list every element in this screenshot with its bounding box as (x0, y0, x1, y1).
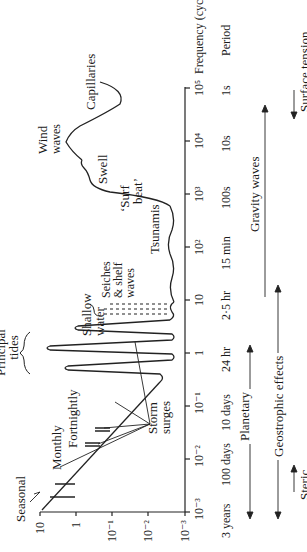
band-surface-tension: Surface tension (298, 31, 307, 112)
band-planetary: Planetary (238, 389, 251, 444)
storm-line2: surges (158, 401, 173, 434)
seiches-line3: waves (123, 268, 137, 298)
band-geostrophic: Geostrophic effects (272, 353, 285, 460)
period-tick-2: 10 days (220, 394, 232, 431)
figure: 10 1 10⁻¹ 10⁻² 10⁻³ Energy (m², decade) … (0, 0, 307, 552)
period-tick-5: 15 min (220, 236, 232, 270)
x-tick-5: 10² (193, 239, 205, 255)
annotation-swell: Swell (96, 154, 109, 184)
x-tick-0: 10⁻³ (193, 498, 205, 520)
period-tick-7: 10s (220, 135, 232, 152)
chart-svg (0, 0, 307, 552)
period-tick-1: 100 days (220, 443, 232, 486)
annotation-seasonal: Seasonal (14, 476, 27, 522)
surf-line2: beat’ (130, 178, 145, 212)
annotation-seiches: Seiches & shelf waves (100, 261, 136, 298)
period-tick-3: 24 hr (220, 347, 232, 372)
band-gravity-waves: Gravity waves (248, 157, 261, 232)
annotation-principal-tides: Principal tides (0, 329, 20, 376)
y-tick-0.1: 10⁻¹ (106, 520, 118, 542)
x-tick-7: 10⁴ (193, 133, 205, 149)
principal-line2: tides (6, 335, 21, 370)
period-tick-8: 1s (220, 85, 232, 96)
y-tick-0.001: 10⁻³ (179, 520, 191, 542)
x-tick-1: 10⁻² (193, 445, 205, 467)
x-tick-8: 10⁵ (193, 80, 205, 96)
x-tick-6: 10³ (193, 186, 205, 202)
annotation-monthly: Monthly (50, 425, 63, 470)
y-tick-10: 10 (34, 522, 46, 534)
x-tick-3: 1 (193, 350, 205, 356)
band-steric: Steric (298, 470, 307, 500)
seasonal-arrow (30, 492, 40, 502)
period-tick-6: 100s (220, 186, 232, 209)
x-tick-2: 10⁻¹ (193, 392, 205, 414)
annotation-capillaries: Capillaries (84, 54, 97, 110)
annotation-storm-surges: Storm surges (146, 401, 172, 434)
y-tick-1: 1 (70, 522, 82, 528)
x-tick-4: 10 (193, 294, 205, 306)
annotation-wind-waves: Wind waves (36, 124, 62, 154)
seiches-marks (104, 304, 168, 314)
period-label: Period (220, 25, 232, 56)
wind-line1: Wind (35, 126, 50, 154)
period-tick-4: 2·5 hr (220, 291, 232, 320)
annotation-shallow-water: Shallow water (80, 293, 106, 336)
rotated-chart: 10 1 10⁻¹ 10⁻² 10⁻³ Energy (m², decade) … (0, 0, 307, 552)
y-tick-0.01: 10⁻² (142, 520, 154, 542)
frequency-axis-label: Frequency (cycles/day) (193, 0, 205, 74)
shallow-line2: water (92, 307, 107, 336)
annotation-tsunamis: Tsunamis (148, 204, 161, 254)
principal-tides-brace (20, 332, 30, 374)
period-tick-0: 3 years (220, 504, 232, 538)
annotation-surf-beat: ‘Surf beat’ (118, 178, 144, 212)
annotation-fortnightly: Fortnightly (66, 389, 79, 448)
wind-line2: waves (49, 124, 63, 154)
